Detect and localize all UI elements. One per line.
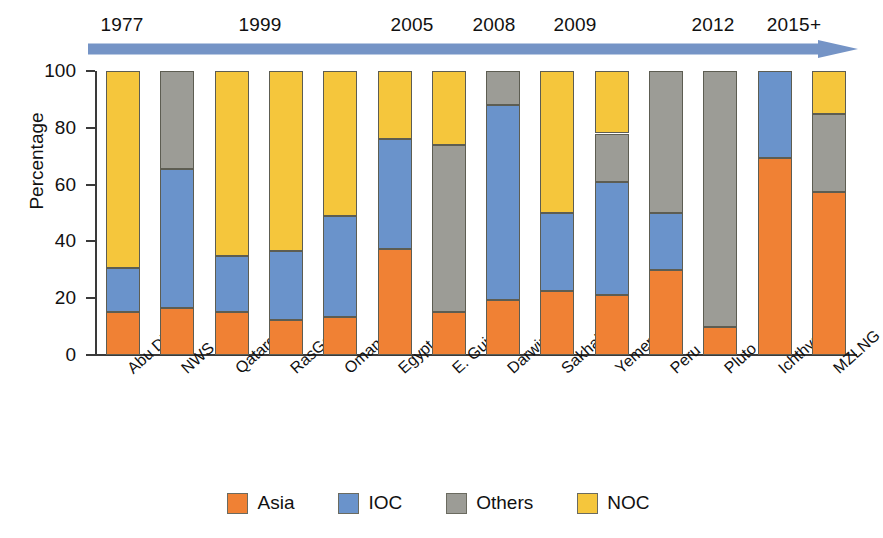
chart-legend: AsiaIOCOthersNOC <box>0 492 877 514</box>
legend-label-ioc: IOC <box>368 492 402 514</box>
segment-asia[interactable] <box>540 291 574 355</box>
legend-item-others[interactable]: Others <box>446 492 533 514</box>
segment-ioc[interactable] <box>269 251 303 319</box>
segment-asia[interactable] <box>269 320 303 356</box>
segment-noc[interactable] <box>106 71 140 268</box>
segment-asia[interactable] <box>378 249 412 356</box>
segment-asia[interactable] <box>812 192 846 355</box>
segment-ioc[interactable] <box>215 256 249 313</box>
segment-ioc[interactable] <box>323 216 357 317</box>
segment-noc[interactable] <box>595 71 629 133</box>
segment-others[interactable] <box>486 71 520 105</box>
segment-noc[interactable] <box>215 71 249 256</box>
segment-asia[interactable] <box>323 317 357 355</box>
legend-swatch-others <box>446 493 467 514</box>
segment-asia[interactable] <box>486 300 520 355</box>
legend-swatch-noc <box>577 493 598 514</box>
segment-asia[interactable] <box>649 270 683 355</box>
segment-asia[interactable] <box>160 308 194 355</box>
segment-noc[interactable] <box>269 71 303 251</box>
legend-label-asia: Asia <box>257 492 294 514</box>
legend-swatch-ioc <box>338 493 359 514</box>
legend-item-ioc[interactable]: IOC <box>338 492 402 514</box>
segment-noc[interactable] <box>432 71 466 145</box>
legend-label-noc: NOC <box>607 492 649 514</box>
legend-label-others: Others <box>476 492 533 514</box>
segment-asia[interactable] <box>595 295 629 355</box>
segment-asia[interactable] <box>106 312 140 355</box>
segment-ioc[interactable] <box>758 71 792 158</box>
segment-ioc[interactable] <box>160 169 194 308</box>
legend-item-noc[interactable]: NOC <box>577 492 649 514</box>
segment-noc[interactable] <box>540 71 574 213</box>
segment-ioc[interactable] <box>486 105 520 300</box>
segment-ioc[interactable] <box>378 139 412 248</box>
segment-ioc[interactable] <box>540 213 574 291</box>
segment-noc[interactable] <box>378 71 412 139</box>
segment-noc[interactable] <box>323 71 357 216</box>
segment-ioc[interactable] <box>106 268 140 312</box>
segment-asia[interactable] <box>215 312 249 355</box>
segment-others[interactable] <box>432 145 466 313</box>
segment-others[interactable] <box>812 114 846 192</box>
segment-others[interactable] <box>649 71 683 213</box>
segment-asia[interactable] <box>703 327 737 355</box>
segment-asia[interactable] <box>758 158 792 355</box>
segment-others[interactable] <box>160 71 194 169</box>
segment-noc[interactable] <box>812 71 846 114</box>
segment-others[interactable] <box>703 71 737 327</box>
segment-ioc[interactable] <box>595 182 629 296</box>
segment-ioc[interactable] <box>649 213 683 270</box>
segment-others[interactable] <box>595 134 629 182</box>
legend-swatch-asia <box>227 493 248 514</box>
segment-asia[interactable] <box>432 312 466 355</box>
legend-item-asia[interactable]: Asia <box>227 492 294 514</box>
